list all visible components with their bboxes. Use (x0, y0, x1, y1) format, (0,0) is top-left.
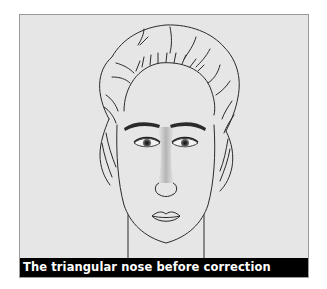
figure-panel: The triangular nose before correction (19, 14, 309, 278)
nose (155, 183, 176, 197)
figure-caption: The triangular nose before correction (20, 258, 308, 277)
nose-shading (158, 127, 174, 183)
lips (152, 212, 180, 221)
right-eye (172, 138, 198, 148)
face-illustration (20, 15, 309, 261)
left-eye (134, 138, 160, 148)
